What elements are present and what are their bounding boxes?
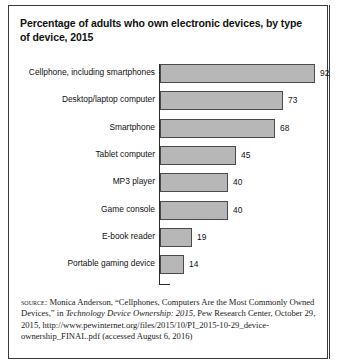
figure-frame: Percentage of adults who own electronic … xyxy=(8,5,328,359)
bar-row: Tablet computer45 xyxy=(20,146,318,165)
bar-row: Smartphone68 xyxy=(20,119,318,138)
bar xyxy=(160,228,192,247)
bar-value-label: 40 xyxy=(233,177,242,187)
source-publication-title: Technology Device Ownership: 2015 xyxy=(66,308,193,318)
bar-category-label: Desktop/laptop computer xyxy=(62,94,155,104)
bar xyxy=(160,255,184,274)
bar-value-label: 92 xyxy=(320,68,329,78)
bar xyxy=(160,146,236,165)
bar-value-label: 68 xyxy=(280,123,289,133)
bar-row: Cellphone, including smartphones92 xyxy=(20,64,318,83)
bar-category-label: Portable gaming device xyxy=(67,258,155,268)
bar-value-label: 14 xyxy=(189,259,198,269)
source-kicker: source: xyxy=(21,297,47,307)
bar-value-label: 45 xyxy=(241,150,250,160)
bar-category-label: E-book reader xyxy=(102,231,155,241)
bar-category-label: Smartphone xyxy=(109,122,155,132)
bar-category-label: Game console xyxy=(101,204,155,214)
bar xyxy=(160,201,228,220)
bar xyxy=(160,173,228,192)
bar-row: Game console40 xyxy=(20,201,318,220)
bar-value-label: 73 xyxy=(288,95,297,105)
bar-row: Portable gaming device14 xyxy=(20,255,318,274)
x-axis-baseline xyxy=(159,284,170,285)
bar-row: E-book reader19 xyxy=(20,228,318,247)
bar-value-label: 40 xyxy=(233,205,242,215)
page-title: Percentage of adults who own electronic … xyxy=(20,16,310,44)
bar-row: Desktop/laptop computer73 xyxy=(20,91,318,110)
bar-category-label: Cellphone, including smartphones xyxy=(29,67,155,77)
chart-plot-area: Cellphone, including smartphones92Deskto… xyxy=(20,62,318,290)
bar-category-label: Tablet computer xyxy=(95,149,155,159)
bar-category-label: MP3 player xyxy=(113,176,155,186)
bar xyxy=(160,119,275,138)
bar xyxy=(160,64,315,83)
bar-row: MP3 player40 xyxy=(20,173,318,192)
source-note: source: Monica Anderson, “Cellphones, Co… xyxy=(21,297,317,342)
bar-value-label: 19 xyxy=(197,232,206,242)
bar xyxy=(160,91,283,110)
